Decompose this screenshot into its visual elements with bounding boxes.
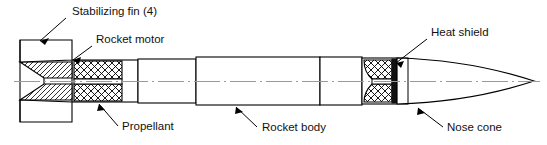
nozzle-wall-lower — [20, 84, 72, 100]
label-heat-shield: Heat shield — [431, 26, 489, 38]
label-stabilizing-fin: Stabilizing fin (4) — [72, 5, 157, 17]
label-nose-cone: Nose cone — [447, 121, 502, 133]
leader-rocket-motor — [73, 46, 92, 60]
propellant-lower — [74, 84, 122, 101]
fin-upper — [20, 40, 72, 62]
arrowhead-nose-cone — [417, 108, 425, 115]
propellant-upper — [74, 61, 122, 79]
label-rocket-motor: Rocket motor — [96, 33, 165, 45]
nozzle-wall-upper — [20, 62, 72, 78]
label-rocket-body: Rocket body — [262, 121, 326, 133]
diagram-geometry — [14, 40, 540, 122]
leader-stabilizing-fin — [40, 18, 66, 41]
label-propellant: Propellant — [122, 120, 175, 132]
rocket-cutaway-figure: Stabilizing fin (4) Rocket motor Propell… — [0, 0, 547, 145]
arrowhead-propellant — [97, 104, 105, 111]
fin-lower — [20, 100, 72, 122]
